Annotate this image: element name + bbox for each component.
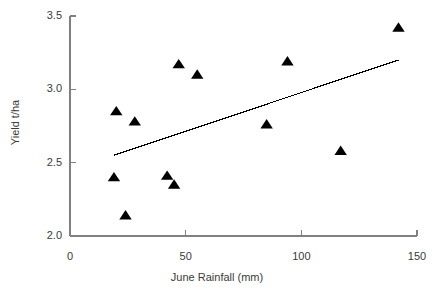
scatter-chart-figure: 2.02.53.03.5050100150 June Rainfall (mm)… <box>0 0 434 294</box>
data-point-marker <box>119 210 131 219</box>
data-point-marker <box>392 22 404 31</box>
x-axis-title: June Rainfall (mm) <box>0 272 434 283</box>
data-point-marker <box>281 56 293 65</box>
y-tick-label: 3.5 <box>32 10 62 21</box>
data-point-marker <box>191 69 203 78</box>
data-point-marker <box>173 59 185 68</box>
data-point-marker <box>129 116 141 125</box>
y-axis-title: Yield t/ha <box>10 78 21 168</box>
data-point-marker <box>260 119 272 128</box>
data-point-marker <box>334 145 346 154</box>
data-markers <box>108 22 405 219</box>
x-tick-label: 100 <box>284 251 318 262</box>
trend-line <box>114 60 399 155</box>
y-tick-label: 3.0 <box>32 83 62 94</box>
axes <box>70 16 417 236</box>
y-tick-label: 2.0 <box>32 230 62 241</box>
x-tick-label: 50 <box>169 251 203 262</box>
x-tick-label: 150 <box>400 251 434 262</box>
data-point-marker <box>161 170 173 179</box>
regression-line <box>114 60 399 155</box>
x-tick-label: 0 <box>53 251 87 262</box>
y-tick-label: 2.5 <box>32 157 62 168</box>
data-point-marker <box>168 179 180 188</box>
data-point-marker <box>108 172 120 181</box>
data-point-marker <box>110 106 122 115</box>
plot-area <box>0 0 434 294</box>
